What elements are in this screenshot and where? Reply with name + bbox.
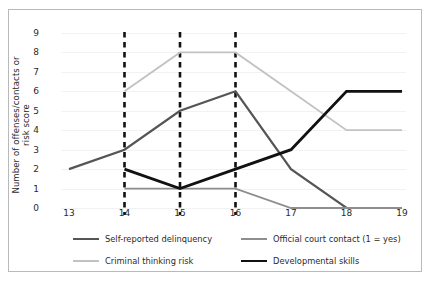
legend-swatch (241, 260, 267, 262)
legend-item[interactable]: Developmental skills (241, 256, 403, 266)
legend-label: Criminal thinking risk (105, 256, 193, 266)
legend-swatch (73, 238, 99, 240)
legend-item[interactable]: Official court contact (1 = yes) (241, 234, 403, 244)
legend-label: Developmental skills (273, 256, 359, 266)
series-line (69, 91, 402, 208)
series-line (125, 189, 403, 208)
series-line (125, 91, 403, 188)
chart-legend: Self-reported delinquencyOfficial court … (73, 234, 403, 266)
chart-figure: Number of offenses/contacts or risk scor… (8, 9, 422, 272)
legend-item[interactable]: Self-reported delinquency (73, 234, 241, 244)
legend-swatch (241, 238, 267, 240)
legend-swatch (73, 260, 99, 262)
legend-label: Official court contact (1 = yes) (273, 234, 401, 244)
legend-item[interactable]: Criminal thinking risk (73, 256, 241, 266)
legend-label: Self-reported delinquency (105, 234, 212, 244)
